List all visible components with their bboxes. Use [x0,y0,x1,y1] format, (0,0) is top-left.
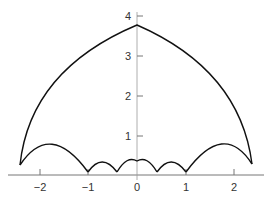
y-tick-label: 2 [125,90,131,102]
diagram: −2 −1 0 1 2 1 2 3 4 [0,0,271,202]
x-tick-label: 1 [183,181,189,193]
y-axis: 1 2 3 4 [125,10,143,180]
curve [20,25,252,172]
x-tick-label: −1 [82,181,95,193]
x-tick-label: 2 [231,181,237,193]
x-tick-label: 0 [134,181,140,193]
x-tick-label: −2 [34,181,47,193]
y-tick-label: 4 [125,10,131,22]
y-tick-label: 3 [125,50,131,62]
y-tick-label: 1 [125,130,131,142]
x-axis: −2 −1 0 1 2 [8,169,264,193]
